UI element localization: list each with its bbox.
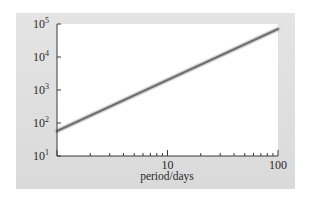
x-axis-label: period/days — [140, 170, 194, 182]
svg-text:101: 101 — [33, 148, 49, 163]
svg-text:104: 104 — [33, 49, 49, 64]
svg-text:105: 105 — [33, 16, 49, 31]
svg-text:102: 102 — [33, 115, 49, 130]
svg-text:100: 100 — [269, 158, 287, 172]
y-axis: 101102103104105 — [33, 16, 61, 163]
svg-text:103: 103 — [33, 82, 49, 97]
